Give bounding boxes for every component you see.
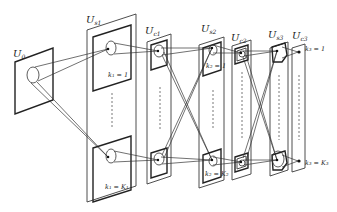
uc3-label: Uc3 <box>292 30 308 42</box>
uc1-label: Uc1 <box>145 25 161 37</box>
uc1-bottom-rf <box>154 153 164 165</box>
us2-top-rf <box>209 45 217 55</box>
layer-us2: Us2 k₂ = 1 k₂ = K₂ <box>199 23 229 188</box>
us2-bottom-k-label: k₂ = K₂ <box>205 170 229 178</box>
layer-uc3: Uc3 k₃ = 1 k₃ = K₃ <box>292 30 329 172</box>
layer-u0: U0 <box>13 48 53 114</box>
uc3-bottom-k-label: k₃ = K₃ <box>305 159 329 167</box>
us1-bottom-k-label: k₁ = K₁ <box>105 183 129 191</box>
us2-label: Us2 <box>201 23 217 35</box>
layer-us1: Us1 k₁ = 1 k₁ = K₁ <box>86 14 136 202</box>
u0-label: U0 <box>13 48 25 60</box>
uc3-bottom-unit <box>297 159 300 162</box>
us1-plane-top <box>93 25 131 91</box>
u0-receptive-field <box>27 67 39 83</box>
uc1-to-us2-connections <box>161 48 212 164</box>
u0-to-us1-connections <box>31 49 108 157</box>
us3-to-uc3-connections <box>282 47 298 167</box>
uc1-plane-bottom <box>151 148 167 178</box>
uc2-to-us3-connections <box>243 51 277 165</box>
uc1-plane-top <box>151 40 167 70</box>
neocognitron-diagram: U0 Us1 k₁ = 1 k₁ = K₁ Uc1 <box>0 0 337 212</box>
uc3-frame <box>292 44 305 172</box>
uc3-top-unit <box>297 50 300 53</box>
layer-uc2: Uc2 <box>231 32 251 180</box>
us1-plane-bottom <box>93 136 131 202</box>
us1-frame <box>87 14 136 202</box>
us3-label: Us3 <box>268 29 284 41</box>
us1-top-k-label: k₁ = 1 <box>108 71 128 79</box>
us1-label: Us1 <box>86 14 101 26</box>
uc3-top-k-label: k₃ = 1 <box>305 45 325 53</box>
us2-top-k-label: k₂ = 1 <box>206 62 226 70</box>
uc2-label: Uc2 <box>231 32 247 44</box>
